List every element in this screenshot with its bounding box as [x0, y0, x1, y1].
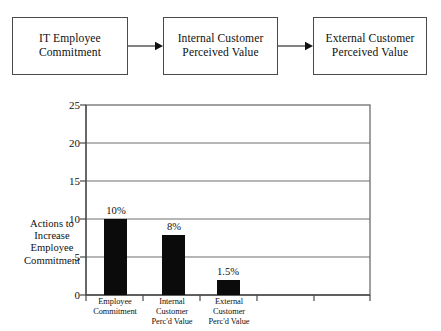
y-axis-tick-labels: 25 20 15 10 5 0	[56, 92, 80, 331]
process-flow-diagram: IT Employee Commitment Internal Customer…	[0, 0, 441, 92]
y-tick-0: 0	[56, 290, 80, 301]
x-cat-3-line-3: Perc'd Value	[201, 317, 257, 327]
y-axis-title-line-2: Increase	[18, 230, 86, 242]
arrow-right-icon	[278, 40, 313, 52]
bar-external-customer-percd-value	[217, 280, 240, 295]
x-cat-2-line-1: Internal	[144, 297, 200, 307]
y-axis-title-line-1: Actions to	[18, 218, 86, 230]
x-category-label-external-customer-percd-value: External Customer Perc'd Value	[201, 297, 257, 327]
flow-box-internal-customer-perceived-value: Internal Customer Perceived Value	[163, 17, 278, 75]
bar-internal-customer-percd-value	[162, 235, 185, 295]
x-cat-3-line-2: Customer	[201, 307, 257, 317]
bar-value-label-3: 1.5%	[202, 266, 254, 277]
flow-box-1-line-2: Commitment	[39, 46, 101, 60]
y-axis-title-line-4: Commitment	[18, 255, 86, 267]
bar-value-label-2: 8%	[148, 221, 200, 232]
y-axis-title: Actions to Increase Employee Commitment	[18, 218, 86, 267]
arrow-right-icon	[128, 40, 163, 52]
y-axis-title-line-3: Employee	[18, 242, 86, 254]
flow-box-3-line-2: Perceived Value	[326, 46, 415, 60]
flow-box-3-line-1: External Customer	[326, 32, 415, 46]
bar-chart: 25 20 15 10 5 0 Actions to Increase Empl…	[0, 92, 441, 331]
y-tick-25: 25	[56, 100, 80, 111]
y-tick-20: 20	[56, 138, 80, 149]
bar-employee-commitment	[104, 219, 127, 295]
flow-box-it-employee-commitment: IT Employee Commitment	[12, 17, 128, 75]
x-cat-2-line-2: Customer	[144, 307, 200, 317]
flow-box-1-line-1: IT Employee	[39, 32, 101, 46]
y-tick-15: 15	[56, 176, 80, 187]
x-cat-2-line-3: Perc'd Value	[144, 317, 200, 327]
x-cat-1-line-1: Employee	[87, 297, 143, 307]
flow-box-2-line-2: Perceived Value	[178, 46, 264, 60]
x-cat-3-line-1: External	[201, 297, 257, 307]
flow-box-external-customer-perceived-value: External Customer Perceived Value	[313, 17, 427, 75]
x-category-label-employee-commitment: Employee Commitment	[87, 297, 143, 317]
bar-value-label-1: 10%	[90, 205, 142, 216]
x-cat-1-line-2: Commitment	[87, 307, 143, 317]
flow-box-2-line-1: Internal Customer	[178, 32, 264, 46]
x-category-label-internal-customer-percd-value: Internal Customer Perc'd Value	[144, 297, 200, 327]
